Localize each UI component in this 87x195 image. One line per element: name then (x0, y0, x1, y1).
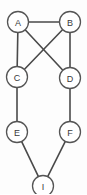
graph-diagram: ABCDEFI (0, 0, 87, 194)
graph-node-circle-a (8, 12, 29, 33)
graph-node-circle-e (7, 122, 28, 143)
graph-node-d[interactable]: D (60, 68, 81, 89)
graph-node-circle-c (7, 67, 28, 88)
graph-edge-f-i (48, 141, 66, 176)
graph-edge-e-i (22, 141, 39, 176)
graph-node-f[interactable]: F (60, 122, 81, 143)
graph-edge-a-c (17, 33, 18, 67)
graph-node-c[interactable]: C (7, 67, 28, 88)
graph-canvas: ABCDEFI (0, 0, 87, 194)
graph-node-circle-f (60, 122, 81, 143)
graph-node-i[interactable]: I (33, 176, 54, 195)
graph-node-circle-i (33, 176, 54, 195)
graph-node-e[interactable]: E (7, 122, 28, 143)
graph-node-circle-d (60, 68, 81, 89)
graph-node-b[interactable]: B (60, 12, 81, 33)
edge-layer (17, 22, 70, 177)
graph-node-a[interactable]: A (8, 12, 29, 33)
graph-node-circle-b (60, 12, 81, 33)
